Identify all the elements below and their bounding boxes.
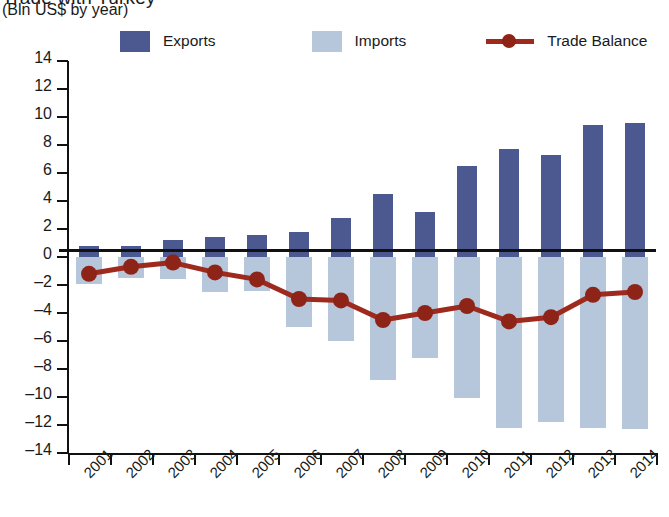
y-tick-mark xyxy=(57,88,68,90)
trade-balance-marker xyxy=(417,305,433,321)
legend-item-imports[interactable]: Imports xyxy=(312,31,407,52)
trade-balance-marker xyxy=(333,292,349,308)
trade-balance-marker xyxy=(627,284,643,300)
y-tick-label: 2 xyxy=(43,217,52,235)
y-tick-mark xyxy=(57,116,68,118)
legend-item-trade-balance[interactable]: Trade Balance xyxy=(486,31,647,52)
trade-balance-marker xyxy=(81,266,97,282)
y-tick-label: –4 xyxy=(34,301,52,319)
y-tick-label: 4 xyxy=(43,189,52,207)
y-tick-label: –10 xyxy=(25,385,52,403)
trade-balance-marker xyxy=(291,291,307,307)
y-tick-label: –6 xyxy=(34,329,52,347)
y-tick-mark xyxy=(57,396,68,398)
y-tick-label: 14 xyxy=(34,49,52,67)
legend-swatch-exports xyxy=(120,31,150,52)
y-tick-label: –14 xyxy=(25,441,52,459)
trade-balance-series xyxy=(68,61,656,453)
legend-label-trade-balance: Trade Balance xyxy=(547,32,647,50)
trade-balance-marker xyxy=(543,309,559,325)
y-tick-label: –12 xyxy=(25,413,52,431)
legend-marker-trade-balance xyxy=(486,31,534,52)
y-tick-label: 0 xyxy=(43,245,52,263)
trade-balance-marker xyxy=(459,298,475,314)
y-tick-mark xyxy=(57,256,68,258)
y-tick-mark xyxy=(57,368,68,370)
y-tick-label: 8 xyxy=(43,133,52,151)
plot-area: 14121086420–2–4–6–8–10–12–14 20012002200… xyxy=(68,61,656,453)
trade-balance-marker xyxy=(207,264,223,280)
trade-balance-marker xyxy=(165,255,181,271)
y-tick-mark xyxy=(57,424,68,426)
y-tick-label: 12 xyxy=(34,77,52,95)
legend-swatch-imports xyxy=(312,31,342,52)
chart-figure: Trade with Turkey (Bln US$ by year) Expo… xyxy=(0,0,669,517)
trade-balance-marker xyxy=(375,312,391,328)
y-tick-mark xyxy=(57,284,68,286)
y-tick-label: 10 xyxy=(34,105,52,123)
y-tick-mark xyxy=(57,172,68,174)
trade-balance-marker xyxy=(585,287,601,303)
y-tick-label: –2 xyxy=(34,273,52,291)
legend-item-exports[interactable]: Exports xyxy=(120,31,216,52)
trade-balance-marker xyxy=(123,259,139,275)
y-tick-mark xyxy=(57,312,68,314)
y-tick-mark xyxy=(57,340,68,342)
x-tick-mark xyxy=(68,453,70,465)
y-tick-mark xyxy=(57,144,68,146)
y-tick-label: 6 xyxy=(43,161,52,179)
y-tick-mark xyxy=(57,228,68,230)
trade-balance-marker xyxy=(249,271,265,287)
legend-label-exports: Exports xyxy=(163,32,216,50)
legend-label-imports: Imports xyxy=(355,32,407,50)
y-tick-mark xyxy=(57,60,68,62)
chart-subtitle: (Bln US$ by year) xyxy=(2,1,128,19)
y-tick-mark xyxy=(57,200,68,202)
y-tick-mark xyxy=(57,452,68,454)
chart-legend: Exports Imports Trade Balance xyxy=(120,29,648,53)
y-tick-label: –8 xyxy=(34,357,52,375)
trade-balance-marker xyxy=(501,313,517,329)
